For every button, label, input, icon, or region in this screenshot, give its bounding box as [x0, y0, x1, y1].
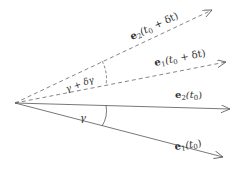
label-e1-t0: e1(t0) [174, 137, 203, 154]
vector-e2-t0 [15, 103, 230, 109]
angle-arc-gamma-plus-dgamma [102, 61, 107, 85]
vector-diagram: e2(t0 + δt) e1(t0 + δt) e2(t0) e1(t0) γ … [0, 0, 241, 171]
label-gamma: γ [80, 112, 86, 123]
label-e2-t0: e2(t0) [175, 89, 202, 102]
angle-arc-gamma [102, 105, 107, 126]
label-e1-t0-plus-dt: e1(t0 + δt) [153, 47, 207, 70]
label-e2-t0-plus-dt: e2(t0 + δt) [128, 10, 181, 44]
